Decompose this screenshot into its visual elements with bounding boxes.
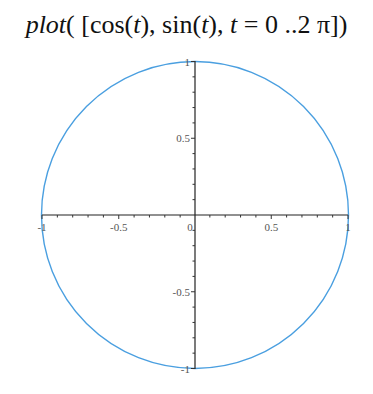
y-tick-label-1: 1 <box>185 56 191 68</box>
y-tick-label-neg1: -1 <box>181 363 190 375</box>
x-tick-label-neg1: -1 <box>37 221 46 233</box>
y-tick-label-05: 0.5 <box>176 132 190 144</box>
x-tick-label-1: 1 <box>345 221 351 233</box>
x-tick-label-0: 0 <box>187 221 193 233</box>
y-tick-label-neg05: -0.5 <box>173 286 191 298</box>
x-tick-label-05: 0.5 <box>264 221 278 233</box>
plot-canvas: -1 -0.5 0 0.5 1 1 0.5 -0.5 -1 <box>0 0 373 394</box>
x-tick-label-neg05: -0.5 <box>110 221 128 233</box>
